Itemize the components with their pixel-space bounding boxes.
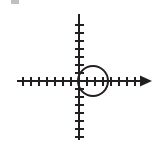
x-axis xyxy=(17,76,152,87)
coordinate-plane-figure xyxy=(0,0,162,145)
x-axis-arrowhead xyxy=(140,76,152,87)
coordinate-plane-svg xyxy=(0,0,162,145)
